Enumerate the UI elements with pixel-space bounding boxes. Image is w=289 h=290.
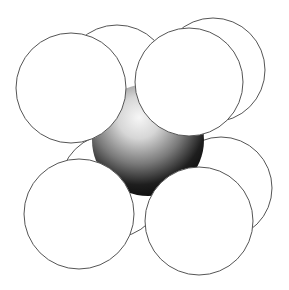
corner-atom-bottom-front-right (145, 167, 253, 275)
corner-atom-top-front-right (135, 28, 243, 136)
bcc-unit-cell-diagram (0, 0, 289, 290)
corner-atom-top-front-left (16, 33, 126, 143)
corner-atom-bottom-front-left (24, 159, 134, 269)
diagram-canvas (0, 0, 289, 290)
